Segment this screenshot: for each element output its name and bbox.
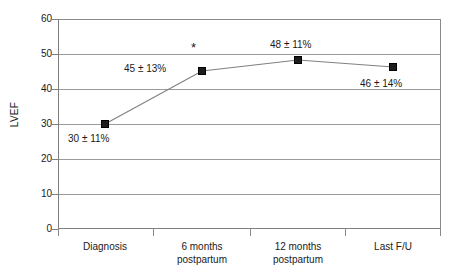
y-tick-label-30: 30 bbox=[6, 119, 52, 129]
data-point-marker-last-fu[interactable] bbox=[389, 63, 397, 71]
x-axis-label-last-fu-line1: Last F/U bbox=[333, 241, 453, 254]
y-tick-label-40: 40 bbox=[6, 84, 52, 94]
gridline-30 bbox=[59, 124, 440, 125]
y-tick-label-60: 60 bbox=[6, 14, 52, 24]
data-point-marker-6-months[interactable] bbox=[198, 67, 206, 75]
x-tick-mark-4 bbox=[440, 229, 441, 236]
x-tick-mark-2 bbox=[250, 229, 251, 236]
lvef-line-chart: LVEF 60 50 40 30 20 10 0 * 30 ± 11% 45 ±… bbox=[0, 0, 457, 280]
gridline-20 bbox=[59, 159, 440, 160]
gridline-10 bbox=[59, 194, 440, 195]
gridline-60 bbox=[59, 19, 440, 20]
x-tick-mark-0 bbox=[58, 229, 59, 236]
x-axis-label-12-months-line2: postpartum bbox=[238, 254, 358, 267]
gridline-50 bbox=[59, 54, 440, 55]
gridline-40 bbox=[59, 89, 440, 90]
data-point-marker-12-months[interactable] bbox=[294, 56, 302, 64]
y-tick-label-10: 10 bbox=[6, 189, 52, 199]
data-point-marker-diagnosis[interactable] bbox=[101, 120, 109, 128]
data-label-6-months: 45 ± 13% bbox=[124, 63, 166, 74]
data-label-last-fu: 46 ± 14% bbox=[360, 78, 402, 89]
data-label-diagnosis: 30 ± 11% bbox=[68, 133, 109, 144]
x-tick-mark-3 bbox=[345, 229, 346, 236]
x-tick-mark-1 bbox=[153, 229, 154, 236]
significance-asterisk: * bbox=[191, 44, 196, 52]
y-tick-label-20: 20 bbox=[6, 154, 52, 164]
x-axis-label-last-fu: Last F/U bbox=[333, 241, 453, 254]
plot-area bbox=[58, 19, 441, 229]
y-tick-label-50: 50 bbox=[6, 49, 52, 59]
y-tick-label-0: 0 bbox=[6, 224, 52, 234]
data-label-12-months: 48 ± 11% bbox=[270, 39, 311, 50]
